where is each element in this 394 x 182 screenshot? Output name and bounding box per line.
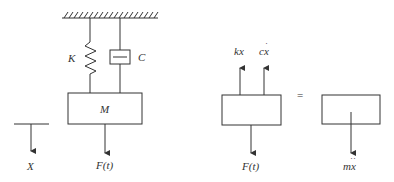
damper-label: C [138, 51, 146, 63]
damper [110, 18, 130, 93]
inertia-dots: ·· [350, 153, 356, 163]
displacement-label: X [26, 160, 35, 172]
fixed-support [62, 12, 158, 18]
mass-label: M [99, 103, 110, 115]
spring-label: K [67, 52, 76, 64]
spring-force-label: kx [234, 45, 244, 57]
equals-sign: = [297, 89, 303, 101]
applied-force-label: F(t) [95, 159, 113, 172]
spring [85, 18, 96, 93]
diagram-canvas: K C M F(t) X kx cx · F(t) = mx ·· [0, 0, 394, 182]
displacement-reference [14, 124, 49, 151]
free-body-force-label: F(t) [241, 160, 259, 173]
free-body-block [222, 95, 281, 125]
damper-force-dot: · [265, 38, 268, 48]
